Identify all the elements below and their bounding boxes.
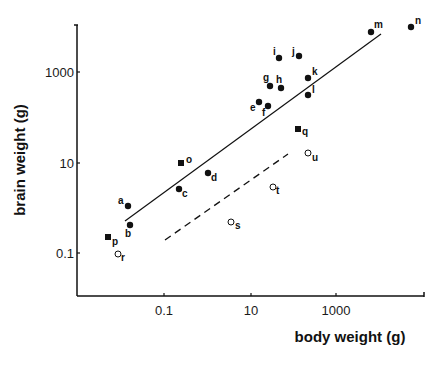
svg-text:h: h: [276, 74, 282, 85]
svg-text:l: l: [312, 84, 315, 95]
y-tick-label-10: 10: [60, 156, 74, 171]
svg-text:o: o: [186, 154, 192, 165]
data-point-h: h: [276, 74, 284, 91]
data-point-s: s: [228, 219, 241, 231]
svg-text:f: f: [262, 107, 266, 118]
x-axis-title: body weight (g): [295, 328, 406, 345]
data-point-b: b: [125, 222, 133, 239]
svg-text:j: j: [291, 46, 295, 57]
svg-text:a: a: [118, 195, 124, 206]
data-point-i: i: [273, 46, 282, 61]
data-point-o: o: [178, 154, 192, 166]
svg-text:m: m: [374, 19, 383, 30]
y-tick-label-0.1: 0.1: [56, 246, 74, 261]
data-point-n: n: [408, 15, 421, 30]
svg-text:k: k: [312, 66, 318, 77]
svg-text:g: g: [263, 72, 269, 83]
data-point-t: t: [270, 184, 280, 196]
data-point-j: j: [291, 46, 302, 59]
svg-text:u: u: [312, 152, 318, 163]
x-tick-label-10: 10: [244, 303, 258, 318]
data-point-e: e: [250, 99, 262, 113]
data-point-r: r: [115, 251, 125, 263]
data-point-p: p: [105, 234, 118, 247]
svg-text:b: b: [125, 228, 131, 239]
regression-line-solid: [125, 34, 381, 221]
data-point-k: k: [305, 66, 318, 81]
svg-text:r: r: [121, 252, 125, 263]
svg-text:s: s: [235, 220, 241, 231]
data-point-c: c: [176, 186, 188, 199]
scatter-chart: 1000 10 0.1 0.1 10 1000 body weight (g) …: [0, 0, 448, 368]
svg-text:d: d: [211, 172, 217, 183]
svg-text:i: i: [273, 46, 276, 57]
data-point-u: u: [305, 150, 318, 163]
svg-text:t: t: [276, 185, 280, 196]
data-point-q: q: [295, 126, 308, 137]
data-point-a: a: [118, 195, 131, 209]
x-tick-label-0.1: 0.1: [155, 303, 173, 318]
svg-text:p: p: [112, 236, 118, 247]
data-point-g: g: [263, 72, 273, 89]
y-axis-title: brain weight (g): [11, 104, 28, 216]
data-point-m: m: [368, 19, 383, 35]
svg-text:q: q: [302, 126, 308, 137]
x-tick-label-1000: 1000: [322, 303, 351, 318]
series-filled-circles: a b c d e f g h i j k l m n: [118, 15, 421, 239]
svg-text:n: n: [415, 15, 421, 26]
y-tick-label-1000: 1000: [45, 65, 74, 80]
data-point-d: d: [205, 170, 217, 183]
svg-text:e: e: [250, 102, 256, 113]
y-tick-1000: 1000: [45, 65, 80, 80]
svg-text:c: c: [182, 188, 188, 199]
